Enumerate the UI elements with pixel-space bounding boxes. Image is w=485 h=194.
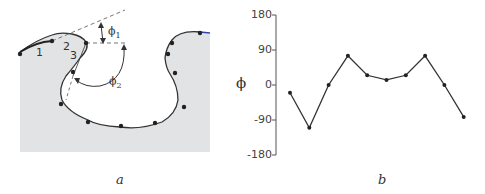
angle-chart-panel: 180 90 0 -90 -180 ϕ b bbox=[240, 0, 485, 194]
segment-label-3: 3 bbox=[70, 49, 77, 62]
data-point bbox=[365, 73, 369, 77]
data-point bbox=[327, 83, 331, 87]
ytick-neg90: -90 bbox=[242, 113, 272, 126]
segment-label-2: 2 bbox=[63, 40, 70, 53]
y-axis-ticks bbox=[272, 15, 276, 155]
data-point bbox=[385, 78, 389, 82]
data-point bbox=[442, 83, 446, 87]
arrowhead-icon bbox=[98, 22, 104, 28]
caption-b: b bbox=[378, 172, 386, 187]
ytick-90: 90 bbox=[242, 43, 272, 56]
series-points bbox=[288, 54, 466, 130]
segment-label-1: 1 bbox=[36, 46, 43, 59]
tangent-extension-3 bbox=[66, 76, 73, 100]
y-axis-label: ϕ bbox=[236, 74, 246, 92]
ytick-0: 0 bbox=[242, 78, 272, 91]
data-point bbox=[346, 54, 350, 58]
data-point bbox=[288, 91, 292, 95]
shape-region bbox=[20, 32, 210, 152]
series-line bbox=[290, 56, 464, 128]
data-point bbox=[307, 126, 311, 130]
ytick-180: 180 bbox=[242, 8, 272, 21]
angle-line-chart bbox=[240, 0, 485, 194]
ytick-neg180: -180 bbox=[242, 148, 272, 161]
data-point bbox=[462, 115, 466, 119]
caption-a: a bbox=[116, 172, 124, 187]
angle-label-phi1: ϕ1 bbox=[108, 25, 121, 40]
arrowhead-icon bbox=[121, 44, 127, 50]
arrowhead-icon bbox=[74, 78, 80, 84]
angle-label-phi2: ϕ2 bbox=[109, 75, 122, 90]
data-point bbox=[423, 54, 427, 58]
contour-diagram-panel: 1 2 3 ϕ1 ϕ2 a bbox=[0, 0, 240, 194]
data-point bbox=[404, 73, 408, 77]
